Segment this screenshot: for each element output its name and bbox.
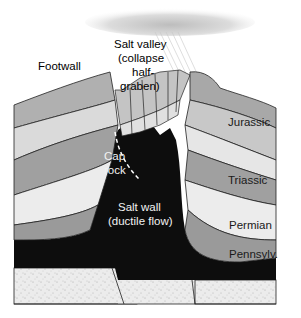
label-cap-rock-2: rock [104,164,126,176]
label-salt-wall-1: Salt wall [118,201,161,213]
label-salt-valley-3: half- [132,66,155,78]
label-salt-valley-2: (collapse [118,52,164,64]
label-salt-valley-1: Salt valley [114,38,167,50]
cloud [85,8,255,36]
salt-wall-diagram: Footwall Salt valley (collapse half- gra… [0,0,301,318]
label-cap-rock-1: Cap [104,150,125,162]
label-triassic: Triassic [228,174,267,186]
right-strata [185,72,276,262]
label-jurassic: Jurassic [228,116,270,128]
label-salt-valley-4: graben) [120,80,160,92]
label-pennsylv: Pennsylv. [229,248,278,260]
label-salt-wall-2: (ductile flow) [108,215,173,227]
label-footwall: Footwall [38,60,81,72]
label-permian: Permian [229,219,272,231]
